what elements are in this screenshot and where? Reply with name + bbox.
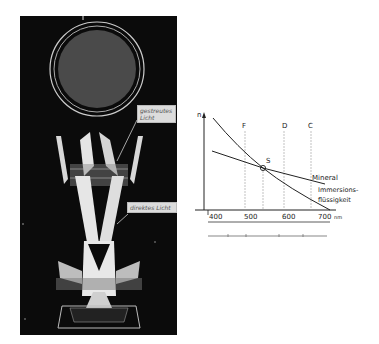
series-label-immersion-line2: flüssigkeit [318,196,351,204]
marker-label-C: C [308,122,313,130]
marker-label-F: F [242,122,246,130]
x-axis-unit: nm [334,214,342,220]
x-tick-500: 500 [244,213,257,221]
x-tick-400: 400 [209,213,222,221]
series-label-mineral: Mineral [312,174,338,182]
series-label-immersion-line1: Immersions- [318,186,359,194]
series-mineral-line [212,151,325,184]
marker-label-D: D [282,122,287,130]
x-tick-600: 600 [282,213,295,221]
series-immersion-curve [213,118,330,210]
dispersion-chart: n F D C S Mineral Immersions- flüssigkei… [0,0,379,344]
x-tick-700: 700 [318,213,331,221]
y-axis-label: n [197,111,201,119]
y-axis-arrow-icon [202,112,206,118]
intersection-label: S [266,157,271,165]
